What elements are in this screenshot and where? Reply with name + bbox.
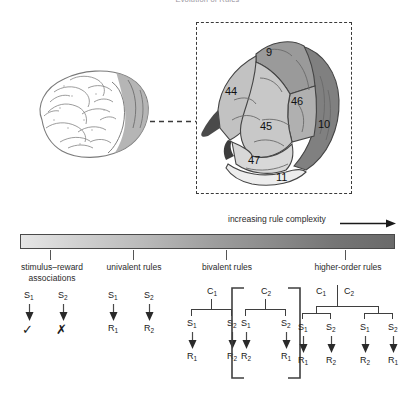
branch-left bbox=[245, 309, 246, 316]
node-s1-a: S1 bbox=[298, 322, 308, 333]
stim-sub: 1 bbox=[193, 322, 197, 329]
connector-line bbox=[150, 120, 198, 123]
stimulus-reward-tree: S1 S2 ✓ ✗ bbox=[0, 290, 100, 360]
ctx-letter: C bbox=[316, 286, 323, 296]
resp-letter: R bbox=[388, 355, 395, 365]
resp-sub: 2 bbox=[333, 359, 337, 366]
cat-line-1: bivalent rules bbox=[188, 262, 266, 273]
univalent-rules-tree: S1 S2 R1 R2 bbox=[100, 290, 180, 360]
resp-sub: 2 bbox=[248, 355, 252, 362]
svg-text:9: 9 bbox=[266, 46, 272, 58]
svg-text:46: 46 bbox=[291, 95, 303, 107]
complexity-arrow-icon bbox=[340, 219, 396, 228]
arrow-down-icon bbox=[145, 304, 154, 321]
root-right bbox=[378, 306, 379, 313]
node-r1: R1 bbox=[187, 351, 197, 362]
prefrontal-cortex-map: 9 44 46 45 10 47 11 bbox=[198, 24, 350, 192]
ctx-sub: 2 bbox=[351, 290, 355, 297]
root-left bbox=[316, 306, 317, 313]
cat-line-1: stimulus–reward bbox=[8, 262, 96, 273]
resp-letter: R bbox=[108, 323, 115, 333]
resp-letter: R bbox=[298, 355, 305, 365]
svg-text:11: 11 bbox=[276, 171, 287, 183]
node-s2: S2 bbox=[281, 318, 291, 329]
svg-text:10: 10 bbox=[318, 118, 330, 130]
node-r1: R1 bbox=[281, 351, 291, 362]
arrow-down-icon bbox=[25, 304, 34, 321]
category-label-higher-order: higher-order rules bbox=[300, 262, 396, 273]
node-r1-a: R1 bbox=[298, 355, 308, 366]
node-c1: C1 bbox=[316, 286, 326, 297]
tick-bivalent bbox=[226, 250, 227, 260]
resp-letter: R bbox=[187, 351, 194, 361]
context-divider bbox=[337, 285, 338, 300]
branch-bar-right bbox=[364, 313, 393, 314]
axis-label: increasing rule complexity bbox=[228, 214, 326, 224]
tick-higher-order bbox=[345, 250, 346, 260]
node-c2: C2 bbox=[344, 286, 354, 297]
branch-bar bbox=[245, 309, 286, 310]
ctx-sub: 1 bbox=[214, 290, 218, 297]
resp-sub: 1 bbox=[288, 355, 292, 362]
svg-text:45: 45 bbox=[260, 120, 272, 132]
higher-order-rules-tree: C1 C2 S1 S2 S1 S2 bbox=[300, 286, 410, 391]
node-r2: R2 bbox=[144, 323, 154, 334]
node-c2: C2 bbox=[261, 286, 271, 297]
ctx-letter: C bbox=[344, 286, 351, 296]
resp-sub: 1 bbox=[305, 359, 309, 366]
node-c1: C1 bbox=[207, 286, 217, 297]
stim-sub: 1 bbox=[114, 294, 118, 301]
arrow-down-icon bbox=[282, 332, 291, 349]
node-r1-b: R1 bbox=[388, 355, 398, 366]
arrow-down-icon bbox=[327, 336, 336, 353]
node-s2: S2 bbox=[144, 290, 154, 301]
stim-sub: 2 bbox=[150, 294, 154, 301]
node-s1: S1 bbox=[241, 318, 251, 329]
resp-letter: R bbox=[144, 323, 151, 333]
stim-sub: 2 bbox=[64, 294, 68, 301]
ctx-sub: 1 bbox=[323, 290, 327, 297]
root-bar bbox=[316, 306, 379, 307]
node-r2-b: R2 bbox=[360, 355, 370, 366]
arrow-down-icon bbox=[299, 336, 308, 353]
rule-complexity-gradient-bar bbox=[20, 234, 395, 249]
stim-sub: 2 bbox=[287, 322, 291, 329]
resp-sub: 2 bbox=[367, 359, 371, 366]
bivalent-c2-group: C2 S1 S2 R2 R1 bbox=[230, 286, 302, 391]
node-s1-b: S1 bbox=[360, 322, 370, 333]
node-s1: S1 bbox=[108, 290, 118, 301]
resp-sub: 1 bbox=[194, 355, 198, 362]
tick-stimulus-reward bbox=[50, 250, 51, 260]
arrow-down-icon bbox=[389, 336, 398, 353]
cross-icon: ✗ bbox=[56, 323, 67, 336]
node-s1: S1 bbox=[24, 290, 34, 301]
branch-right bbox=[285, 309, 286, 316]
stim-sub: 2 bbox=[332, 326, 336, 333]
cat-line-1: higher-order rules bbox=[300, 262, 396, 273]
check-icon: ✓ bbox=[22, 323, 33, 336]
svg-text:47: 47 bbox=[248, 154, 260, 166]
figure-title: Evolution of Rules bbox=[0, 0, 415, 4]
resp-sub: 2 bbox=[151, 327, 155, 334]
arrow-down-icon bbox=[109, 304, 118, 321]
ctx-letter: C bbox=[207, 286, 214, 296]
stim-sub: 1 bbox=[304, 326, 308, 333]
temporal-notch bbox=[201, 110, 220, 137]
arrow-down-icon bbox=[188, 332, 197, 349]
resp-letter: R bbox=[326, 355, 333, 365]
cat-line-2: associations bbox=[8, 273, 96, 284]
svg-text:44: 44 bbox=[225, 85, 237, 97]
category-label-bivalent: bivalent rules bbox=[188, 262, 266, 273]
resp-sub: 1 bbox=[395, 359, 399, 366]
stim-sub: 1 bbox=[247, 322, 251, 329]
tick-univalent bbox=[133, 250, 134, 260]
branch-rr bbox=[392, 313, 393, 319]
resp-sub: 1 bbox=[115, 327, 119, 334]
resp-letter: R bbox=[360, 355, 367, 365]
cat-line-1: univalent rules bbox=[95, 262, 173, 273]
node-s2-b: S2 bbox=[388, 322, 398, 333]
node-s2: S2 bbox=[58, 290, 68, 301]
node-r2: R2 bbox=[241, 351, 251, 362]
branch-lr bbox=[330, 313, 331, 319]
category-label-univalent: univalent rules bbox=[95, 262, 173, 273]
